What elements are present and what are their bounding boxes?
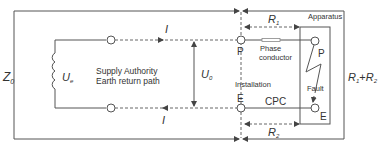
ue-label: Ue — [62, 71, 74, 84]
installation-terminal-e — [237, 104, 245, 112]
r1-label: R1 — [268, 13, 279, 26]
conductor-label: conductor — [259, 53, 292, 62]
supply-authority-label: Supply Authority — [96, 66, 158, 76]
supply-terminal-top — [107, 36, 115, 44]
apparatus-e-label: E — [320, 111, 327, 122]
installation-terminal-p — [237, 36, 245, 44]
cpc-label: CPC — [265, 96, 286, 107]
u0-label: U0 — [201, 68, 213, 81]
r2-label: R2 — [268, 126, 280, 139]
r1-plus-r2-label: R1+R2 — [348, 71, 378, 84]
phase-label: Phase — [260, 44, 281, 53]
current-bottom-label: I — [162, 114, 165, 126]
z0-label: Z0 — [2, 70, 14, 85]
current-top-label: I — [165, 23, 168, 35]
earth-return-path-label: Earth return path — [96, 76, 160, 86]
earth-fault-loop-diagram: Z0 Ue I I Supply Authority Earth return … — [0, 0, 379, 149]
apparatus-terminal-e — [311, 104, 319, 112]
installation-p-label: P — [237, 46, 244, 57]
supply-terminal-bottom — [107, 104, 115, 112]
r1-r2-loop — [243, 11, 344, 139]
fault-arrow — [313, 96, 314, 102]
installation-e-label: E — [237, 93, 244, 104]
apparatus-terminal-p — [311, 37, 319, 45]
apparatus-p-label: P — [318, 48, 325, 59]
phase-resistor-icon — [262, 39, 280, 42]
apparatus-label: Apparatus — [308, 12, 342, 21]
fault-label: Fault — [307, 84, 325, 93]
installation-label: Installation — [235, 80, 271, 89]
